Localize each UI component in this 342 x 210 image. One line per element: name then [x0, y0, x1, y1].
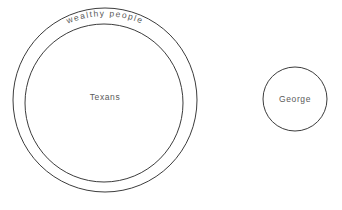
set-label-george: George: [279, 94, 311, 104]
euler-diagram: wealthy people Texans George: [0, 0, 342, 210]
set-label-wealthy-people-text: wealthy people: [64, 8, 145, 26]
diagram-canvas: wealthy people Texans George: [0, 0, 342, 210]
set-label-wealthy-people: wealthy people: [64, 8, 145, 26]
set-circle-texans: [25, 24, 183, 182]
set-label-texans: Texans: [90, 92, 121, 102]
